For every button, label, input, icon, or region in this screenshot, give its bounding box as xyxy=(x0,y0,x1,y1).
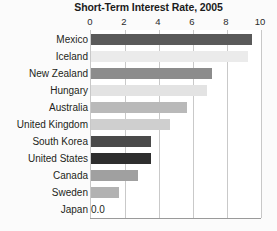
category-label-united-states: United States xyxy=(28,150,88,167)
x-tick-label-8: 8 xyxy=(223,16,228,27)
bar-row: Japan0.0 xyxy=(0,201,277,218)
x-tick-label-6: 6 xyxy=(189,16,194,27)
bar-row: United States xyxy=(0,150,277,167)
bar-australia xyxy=(91,102,187,113)
category-label-iceland: Iceland xyxy=(56,48,88,65)
bar-row: Australia xyxy=(0,99,277,116)
bar-row: South Korea xyxy=(0,133,277,150)
category-label-south-korea: South Korea xyxy=(32,133,88,150)
bar-row: New Zealand xyxy=(0,65,277,82)
bar-row: Mexico xyxy=(0,31,277,48)
bar-canada xyxy=(91,170,138,181)
bar-chart: Short-Term Interest Rate, 2005 0246810 M… xyxy=(0,0,277,231)
x-axis-tick-labels: 0246810 xyxy=(0,16,277,29)
bar-iceland xyxy=(91,51,248,62)
category-label-sweden: Sweden xyxy=(52,184,88,201)
bar-south-korea xyxy=(91,136,151,147)
x-axis-baseline xyxy=(90,218,261,219)
category-label-mexico: Mexico xyxy=(56,31,88,48)
bar-united-kingdom xyxy=(91,119,170,130)
value-label-japan: 0.0 xyxy=(91,201,105,218)
bar-row: Iceland xyxy=(0,48,277,65)
bar-row: Canada xyxy=(0,167,277,184)
bar-row: Sweden xyxy=(0,184,277,201)
bar-hungary xyxy=(91,85,207,96)
category-label-japan: Japan xyxy=(61,201,88,218)
x-tick-label-4: 4 xyxy=(155,16,160,27)
category-label-united-kingdom: United Kingdom xyxy=(17,116,88,133)
category-label-canada: Canada xyxy=(53,167,88,184)
bar-row: Hungary xyxy=(0,82,277,99)
bar-new-zealand xyxy=(91,68,212,79)
category-label-hungary: Hungary xyxy=(50,82,88,99)
bar-sweden xyxy=(91,187,119,198)
x-tick-label-2: 2 xyxy=(121,16,126,27)
bar-row: United Kingdom xyxy=(0,116,277,133)
chart-title: Short-Term Interest Rate, 2005 xyxy=(0,1,277,13)
bar-united-states xyxy=(91,153,151,164)
x-tick-label-10: 10 xyxy=(255,16,266,27)
category-label-new-zealand: New Zealand xyxy=(29,65,88,82)
x-tick-label-0: 0 xyxy=(87,16,92,27)
bar-mexico xyxy=(91,34,252,45)
category-label-australia: Australia xyxy=(49,99,88,116)
